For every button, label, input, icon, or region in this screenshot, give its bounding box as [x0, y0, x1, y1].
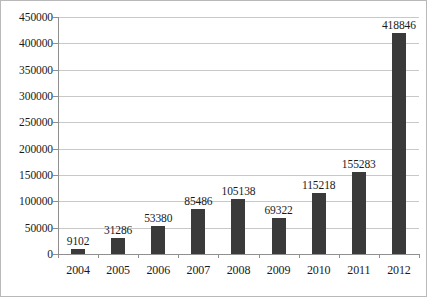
y-axis-tick-mark [53, 122, 58, 123]
bar-group: 31286 [98, 17, 138, 254]
bar-group: 9102 [58, 17, 98, 254]
y-axis-tick-mark [53, 17, 58, 18]
bar-value-label: 53380 [144, 212, 172, 224]
bar-value-label: 155283 [342, 158, 376, 170]
bar-group: 155283 [339, 17, 379, 254]
bar-group: 115218 [299, 17, 339, 254]
x-axis-tick-mark [58, 254, 59, 258]
bar[interactable] [231, 199, 245, 254]
x-axis-category-label: 2008 [227, 263, 251, 278]
x-axis-tick-mark [339, 254, 340, 258]
x-axis-category-label: 2011 [347, 263, 370, 278]
plot-area: 9102312865338085486105138693221152181552… [58, 17, 419, 254]
bar-value-label: 31286 [104, 224, 132, 236]
bar-value-label: 418846 [382, 19, 416, 31]
bar-value-label: 69322 [264, 204, 292, 216]
bar-group: 85486 [178, 17, 218, 254]
bar-chart-figure: 0500001000001500002000002500003000003500… [0, 0, 427, 297]
bar[interactable] [312, 193, 326, 254]
y-axis-tick-label: 50000 [25, 222, 53, 234]
bar[interactable] [191, 209, 205, 254]
bar-group: 418846 [379, 17, 419, 254]
x-axis-tick-mark [259, 254, 260, 258]
bar[interactable] [392, 33, 406, 254]
x-axis-tick-mark [419, 254, 420, 258]
bar-group: 53380 [138, 17, 178, 254]
bar[interactable] [272, 218, 286, 255]
y-axis-tick-label-group: 0500001000001500002000002500003000003500… [1, 1, 53, 297]
y-axis-tick-label: 150000 [19, 169, 53, 181]
x-axis-tick-mark [379, 254, 380, 258]
x-axis-category-label: 2012 [387, 263, 411, 278]
x-axis-category-label: 2007 [187, 263, 211, 278]
y-axis-line [58, 17, 59, 255]
x-axis-category-label: 2006 [146, 263, 170, 278]
x-axis-line [58, 254, 419, 255]
x-axis-category-label: 2009 [267, 263, 291, 278]
y-axis-tick-label: 350000 [19, 64, 53, 76]
x-axis-tick-mark [178, 254, 179, 258]
bar-value-label: 85486 [184, 195, 212, 207]
bar-group: 105138 [218, 17, 258, 254]
bar[interactable] [352, 172, 366, 254]
y-axis-tick-mark [53, 43, 58, 44]
bar-group: 69322 [259, 17, 299, 254]
y-axis-tick-mark [53, 228, 58, 229]
bar[interactable] [151, 226, 165, 254]
bar-value-label: 115218 [302, 179, 335, 191]
x-axis-tick-mark [98, 254, 99, 258]
bar[interactable] [111, 238, 125, 254]
x-axis-tick-mark [138, 254, 139, 258]
y-axis-tick-mark [53, 149, 58, 150]
bar-value-label: 105138 [222, 185, 256, 197]
y-axis-tick-label: 400000 [19, 37, 53, 49]
y-axis-tick-label: 200000 [19, 143, 53, 155]
x-axis-tick-mark [218, 254, 219, 258]
y-axis-tick-mark [53, 175, 58, 176]
x-axis-tick-mark [299, 254, 300, 258]
y-axis-tick-mark [53, 70, 58, 71]
y-axis-tick-label: 100000 [19, 195, 53, 207]
y-axis-tick-label: 450000 [19, 11, 53, 23]
y-axis-tick-mark [53, 201, 58, 202]
bar-value-label: 9102 [67, 235, 90, 247]
y-axis-tick-label: 300000 [19, 90, 53, 102]
x-axis-category-label: 2010 [307, 263, 331, 278]
x-axis-category-label: 2005 [106, 263, 130, 278]
y-axis-tick-label: 250000 [19, 116, 53, 128]
x-axis-category-label: 2004 [66, 263, 90, 278]
y-axis-tick-mark [53, 96, 58, 97]
